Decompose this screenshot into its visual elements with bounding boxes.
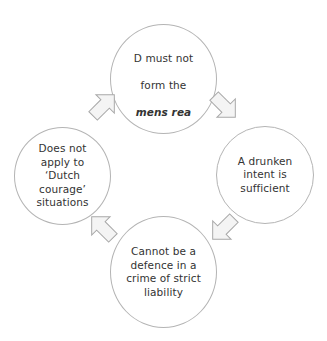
node-top-line-3-italic: mens rea (136, 106, 192, 118)
node-top-line-2: form the (141, 79, 187, 91)
arrow-up-right-icon (83, 86, 123, 126)
arrow-down-right-icon (204, 86, 244, 126)
arrow-up-left-icon (83, 208, 123, 248)
cycle-diagram: D must not form the mens rea A drunken i… (0, 0, 327, 341)
node-bottom-strict-liability: Cannot be a defence in a crime of strict… (110, 216, 217, 328)
node-top-label: D must not form the mens rea (134, 39, 193, 120)
node-bottom-label: Cannot be a defence in a crime of strict… (126, 245, 201, 299)
node-right-label: A drunken intent is sufficient (238, 155, 293, 196)
node-top-mens-rea: D must not form the mens rea (110, 24, 217, 134)
arrow-down-left-icon (204, 208, 244, 248)
node-top-line-1: D must not (134, 52, 193, 64)
node-left-label: Does not apply to ‘Dutch courage’ situat… (36, 142, 88, 210)
